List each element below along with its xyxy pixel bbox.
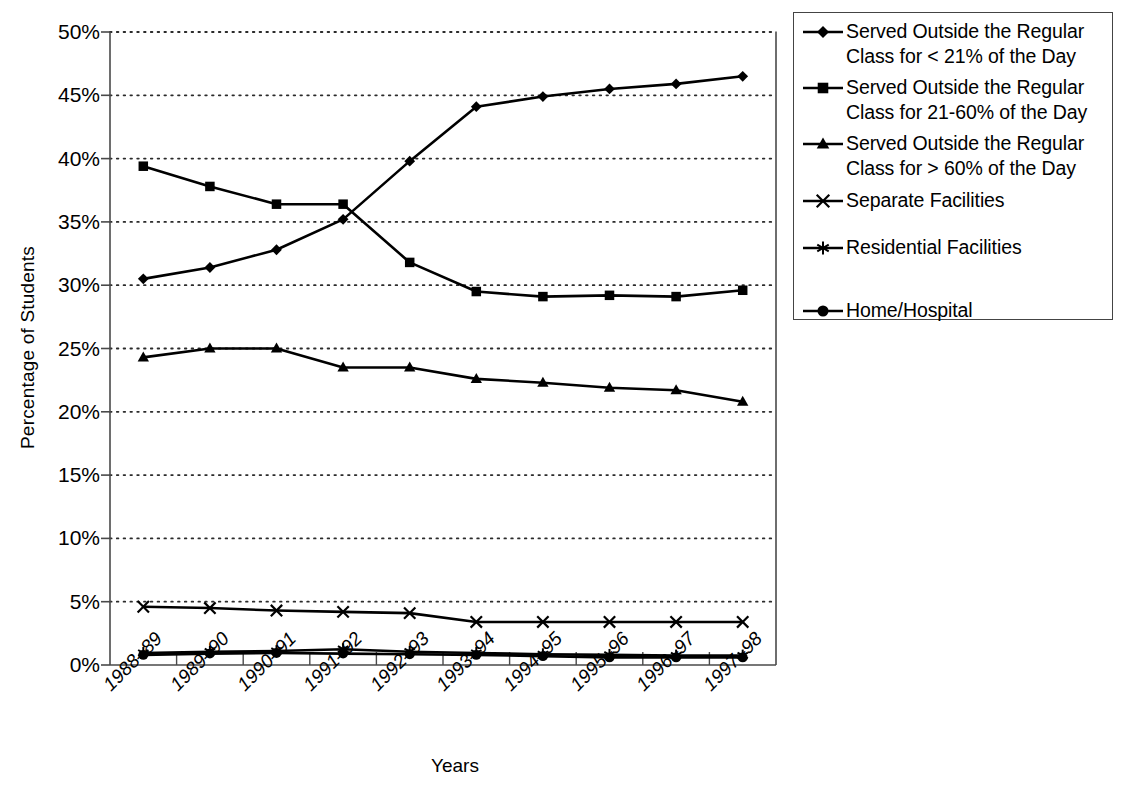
- line-chart: Percentage of Students 0%5%10%15%20%25%3…: [0, 0, 1122, 792]
- legend-label: Served Outside the Regular Class for > 6…: [846, 131, 1084, 181]
- x-tick-label: 1992–93: [366, 628, 434, 696]
- legend-item-3[interactable]: Separate Facilities: [800, 188, 1005, 213]
- circle-icon: [800, 300, 846, 322]
- legend-label: Home/Hospital: [846, 298, 973, 323]
- legend-item-4[interactable]: Residential Facilities: [800, 235, 1022, 260]
- x-tick-label: 1997–98: [699, 628, 767, 696]
- x-tick-label: 1989–90: [166, 628, 234, 696]
- legend-label: Residential Facilities: [846, 235, 1022, 260]
- legend-label: Served Outside the Regular Class for 21-…: [846, 75, 1087, 125]
- x-tick-label: 1991–92: [299, 628, 367, 696]
- legend-item-5[interactable]: Home/Hospital: [800, 298, 973, 323]
- triangle-icon: [800, 133, 846, 155]
- x-tick-label: 1994–95: [499, 628, 567, 696]
- legend-label: Served Outside the Regular Class for < 2…: [846, 19, 1084, 69]
- legend-item-0[interactable]: Served Outside the Regular Class for < 2…: [800, 19, 1084, 69]
- square-icon: [800, 77, 846, 99]
- x-tick-label: 1996–97: [632, 628, 700, 696]
- diamond-icon: [800, 21, 846, 43]
- x-tick-label: 1990–91: [233, 628, 301, 696]
- cross-icon: [800, 190, 846, 212]
- x-axis-title: Years: [330, 755, 580, 777]
- x-tick-label: 1995–96: [566, 628, 634, 696]
- asterisk-icon: [800, 237, 846, 259]
- x-tick-label: 1993–94: [432, 628, 500, 696]
- legend-item-2[interactable]: Served Outside the Regular Class for > 6…: [800, 131, 1084, 181]
- x-tick-label: 1988–89: [99, 628, 167, 696]
- legend: Served Outside the Regular Class for < 2…: [793, 12, 1113, 320]
- legend-label: Separate Facilities: [846, 188, 1005, 213]
- legend-item-1[interactable]: Served Outside the Regular Class for 21-…: [800, 75, 1087, 125]
